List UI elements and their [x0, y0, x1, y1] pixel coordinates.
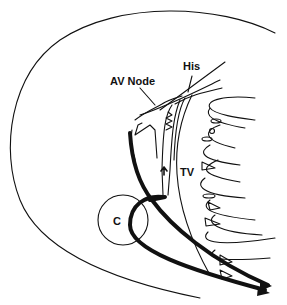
cs-label: C [113, 215, 121, 227]
his-leader [188, 76, 192, 92]
av-node-left [135, 123, 157, 158]
coronary-sinus-circle [98, 195, 148, 245]
slow-pathway-left [130, 133, 268, 285]
diagram-canvas: AV Node His TV C [0, 0, 287, 305]
heart-diagram: AV Node His TV C [0, 0, 287, 305]
his-label: His [183, 60, 200, 72]
tv-label: TV [180, 166, 195, 178]
av-node-channel-2 [168, 100, 180, 195]
av-node-leader [140, 88, 155, 105]
av-node-channel-3 [174, 98, 185, 160]
tricuspid-leaflets [201, 97, 275, 279]
av-node-label: AV Node [110, 75, 155, 87]
heart-outline [10, 11, 275, 298]
